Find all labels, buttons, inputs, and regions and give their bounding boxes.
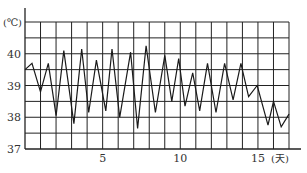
chart-axes xyxy=(25,8,301,149)
y-tick-label: 37 xyxy=(7,143,21,156)
x-tick-label: 10 xyxy=(173,152,187,165)
y-axis-unit-label: (℃) xyxy=(3,17,22,28)
chart-grid xyxy=(25,22,289,149)
temperature-line-chart: (℃) (天) 3738394051015 xyxy=(0,0,307,173)
chart-labels: (℃) (天) 3738394051015 xyxy=(3,17,289,165)
x-axis-unit-label: (天) xyxy=(271,153,289,164)
x-tick-label: 5 xyxy=(99,152,106,165)
y-tick-label: 38 xyxy=(7,111,21,124)
x-tick-label: 15 xyxy=(251,152,265,165)
temperature-series-line xyxy=(25,46,289,129)
y-tick-label: 39 xyxy=(7,80,21,93)
chart-series xyxy=(25,46,289,129)
y-tick-label: 40 xyxy=(7,48,21,61)
